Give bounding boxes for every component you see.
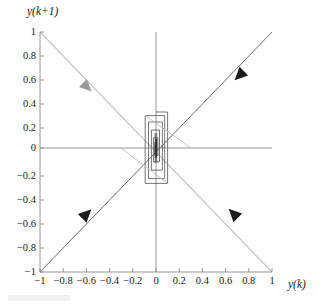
x-tick-label: 0.4 <box>196 276 209 287</box>
x-tick-label: 0.6 <box>219 276 232 287</box>
x-tick-label: 1 <box>269 276 274 287</box>
x-tick-label: 0.2 <box>173 276 186 287</box>
figure-container: y(k+1) y(k) 1 0.8 0.6 0.4 0.2 0 −0.2 −0.… <box>0 0 327 307</box>
x-tick-label: 0 <box>153 276 158 287</box>
x-tick-label: −0.6 <box>77 276 96 287</box>
x-tick-label: 0.8 <box>242 276 255 287</box>
x-tick-label-group: −1 −0.8 −0.6 −0.4 −0.2 0 0.2 0.4 0.6 0.8… <box>0 0 327 307</box>
x-tick-label: −1 <box>34 276 45 287</box>
caption-remnant <box>8 295 70 301</box>
x-tick-label: −0.4 <box>100 276 119 287</box>
x-tick-label: −0.8 <box>54 276 73 287</box>
x-tick-label: −0.2 <box>123 276 142 287</box>
